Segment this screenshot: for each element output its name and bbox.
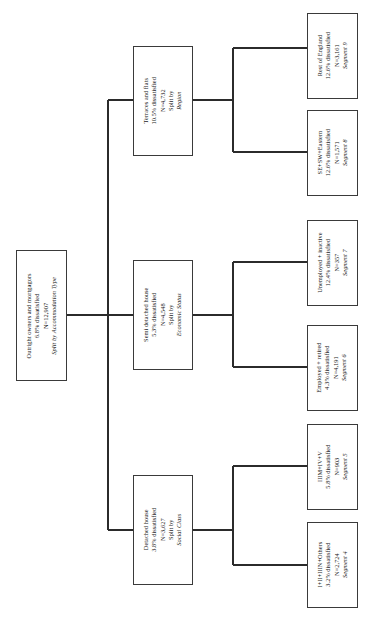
node-root-split: Split by Accommodation Type xyxy=(50,273,58,358)
node-terraces-rate: 10.5% dissatisfied xyxy=(151,72,159,130)
node-seg5-n: N=903 xyxy=(333,443,341,492)
node-seg9-n: N=3,161 xyxy=(333,32,341,81)
node-segment-4[interactable]: I+II+IIIN+Others 3.2% dissatisfied N=2,7… xyxy=(307,522,358,608)
node-seg5-rate: 5.8% dissatisfied xyxy=(324,443,332,492)
node-semi-rate: 5.3% dissatisfied xyxy=(151,286,159,344)
node-detached-split-prefix: Split by xyxy=(167,501,175,559)
node-seg9-segment: Segment 9 xyxy=(341,32,349,81)
node-semi-split-variable: Economic Status xyxy=(175,286,183,344)
node-root-label: Outright owners and mortgagors xyxy=(25,273,33,358)
node-seg6-rate: 4.3% dissatisfied xyxy=(324,343,332,393)
node-seg4-segment: Segment 4 xyxy=(341,541,349,590)
node-seg4-label: I+II+IIIN+Others xyxy=(316,541,324,590)
decision-tree-diagram: Outright owners and mortgagors 6.8% diss… xyxy=(0,0,373,623)
node-seg8-label: SE+SW+Eastern xyxy=(316,129,324,178)
node-seg8-n: N=1,571 xyxy=(333,129,341,178)
node-segment-7[interactable]: Unemployed + inactive 12.4% dissatisfied… xyxy=(307,220,358,306)
node-seg7-segment: Segment 7 xyxy=(341,233,349,293)
node-semi-split-prefix: Split by xyxy=(167,286,175,344)
node-semi-label: Semi detached house xyxy=(142,286,150,344)
node-detached-house[interactable]: Detached house 3.8% dissatisfied N=3,627… xyxy=(133,475,193,585)
node-terraces-n: N=4,732 xyxy=(159,72,167,130)
node-seg4-rate: 3.2% dissatisfied xyxy=(324,541,332,590)
node-segment-6[interactable]: Employed + retired 4.3% dissatisfied N=4… xyxy=(307,325,358,411)
node-segment-5[interactable]: IIIM+IV+V 5.8% dissatisfied N=903 Segmen… xyxy=(307,424,358,510)
node-detached-label: Detached house xyxy=(142,501,150,559)
node-detached-n: N=3,627 xyxy=(159,501,167,559)
node-semi-n: N=4,548 xyxy=(159,286,167,344)
node-seg8-segment: Segment 8 xyxy=(341,129,349,178)
node-root[interactable]: Outright owners and mortgagors 6.8% diss… xyxy=(16,250,67,381)
node-segment-9[interactable]: Rest of England 12.6% dissatisfied N=3,1… xyxy=(307,13,358,99)
node-detached-split-variable: Social Class xyxy=(175,501,183,559)
node-seg9-label: Rest of England xyxy=(316,32,324,81)
node-root-rate: 6.8% dissatisfied xyxy=(33,273,41,358)
node-segment-8[interactable]: SE+SW+Eastern 12.6% dissatisfied N=1,571… xyxy=(307,110,358,196)
node-seg4-n: N=2,724 xyxy=(333,541,341,590)
node-root-n: N=12,907 xyxy=(42,273,50,358)
node-terraces-and-flats[interactable]: Terraces and flats 10.5% dissatisfied N=… xyxy=(133,46,193,156)
node-seg8-rate: 12.6% dissatisfied xyxy=(324,129,332,178)
node-semi-detached-house[interactable]: Semi detached house 5.3% dissatisfied N=… xyxy=(133,260,193,370)
node-detached-rate: 3.8% dissatisfied xyxy=(151,501,159,559)
node-terraces-split-variable: Region xyxy=(175,72,183,130)
node-seg7-rate: 12.4% dissatisfied xyxy=(324,233,332,293)
node-terraces-split-prefix: Split by xyxy=(167,72,175,130)
node-seg5-label: IIIM+IV+V xyxy=(316,443,324,492)
node-seg9-rate: 12.6% dissatisfied xyxy=(324,32,332,81)
node-terraces-label: Terraces and flats xyxy=(142,72,150,130)
node-seg6-segment: Segment 6 xyxy=(341,343,349,393)
node-seg5-segment: Segment 5 xyxy=(341,443,349,492)
